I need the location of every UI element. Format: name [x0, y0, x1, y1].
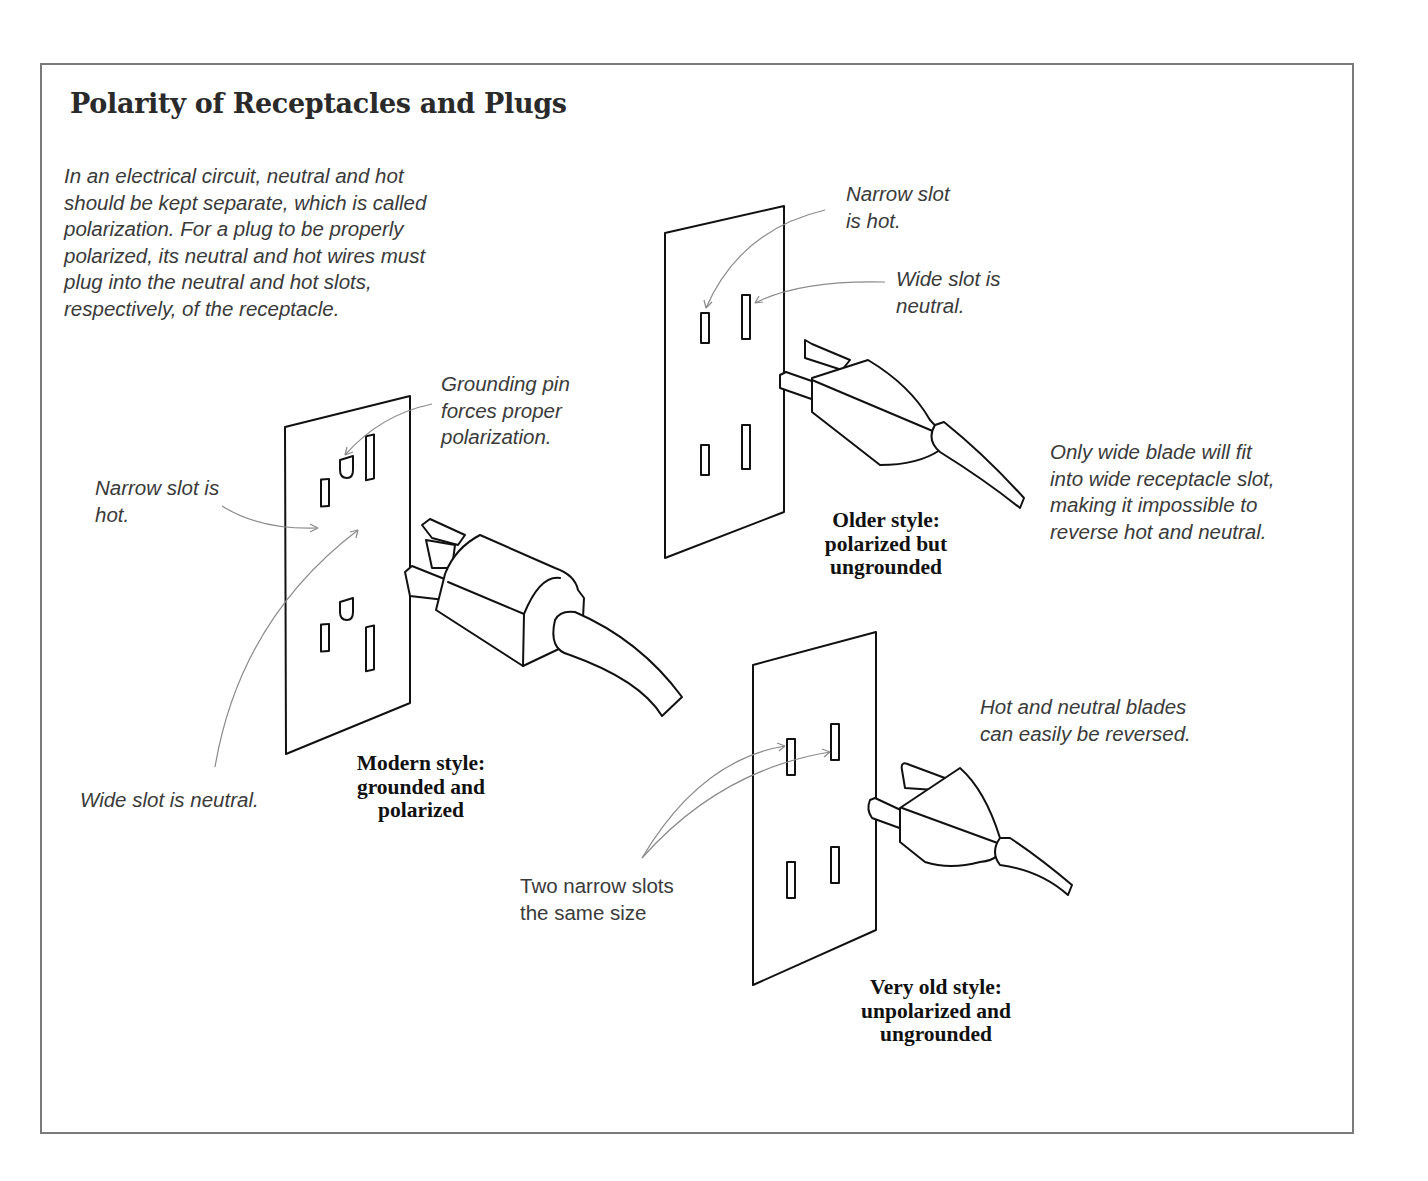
callout-modern-narrow-slot: Narrow slot is hot.	[95, 475, 219, 528]
narrow-slot	[831, 724, 839, 760]
callout-grounding-pin: Grounding pin forces proper polarization…	[441, 371, 570, 451]
narrow-slot	[787, 739, 795, 775]
older-receptacle	[665, 206, 784, 558]
caption-very-old: Very old style: unpolarized and unground…	[830, 976, 1042, 1047]
older-plug	[780, 340, 1024, 508]
callout-reversible: Hot and neutral blades can easily be rev…	[980, 694, 1191, 747]
callout-wide-blade: Only wide blade will fit into wide recep…	[1050, 439, 1274, 545]
callout-older-narrow-slot: Narrow slot is hot.	[846, 181, 950, 234]
callout-modern-wide-slot: Wide slot is neutral.	[80, 787, 259, 814]
caption-older: Older style: polarized but ungrounded	[795, 509, 977, 580]
caption-modern: Modern style: grounded and polarized	[330, 752, 512, 823]
callout-two-narrow-slots: Two narrow slots the same size	[520, 873, 674, 926]
ground-hole-icon	[340, 456, 353, 478]
callout-older-wide-slot: Wide slot is neutral.	[896, 266, 1001, 319]
very-old-receptacle	[753, 632, 876, 985]
modern-plug	[405, 519, 682, 716]
modern-receptacle	[285, 396, 410, 754]
wide-slot	[742, 295, 750, 339]
narrow-slot	[321, 479, 329, 507]
narrow-slot	[701, 313, 709, 343]
very-old-plug	[868, 763, 1072, 895]
wide-slot	[366, 435, 374, 481]
illustration	[0, 0, 1428, 1181]
